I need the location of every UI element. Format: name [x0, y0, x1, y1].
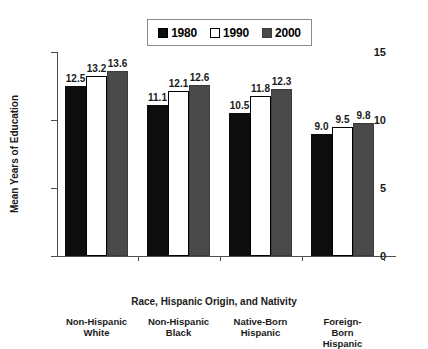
legend-label-2000: 2000	[275, 27, 301, 39]
y-axis-tick-label: 10	[374, 114, 386, 126]
x-axis-category-label: Foreign-Born Hispanic	[316, 316, 369, 349]
bar-value-label: 12.1	[169, 78, 188, 89]
y-axis-tick	[51, 52, 57, 53]
y-axis-tick-label: 5	[380, 182, 386, 194]
x-axis-category-label: Native-Born Hispanic	[234, 316, 288, 338]
bar	[168, 91, 189, 256]
legend-swatch-1990-icon	[210, 28, 220, 38]
bar-value-label: 12.3	[272, 76, 291, 87]
x-axis-category-label: Non-Hispanic White	[66, 316, 127, 338]
bar-value-label: 9.0	[315, 121, 329, 132]
legend-item-1990: 1990	[210, 27, 249, 39]
bar	[189, 85, 210, 256]
bar	[332, 127, 353, 256]
bar-value-label: 12.6	[190, 72, 209, 83]
y-axis-tick	[51, 120, 57, 121]
bar-group: 9.09.59.8	[311, 52, 374, 256]
bar	[311, 134, 332, 256]
bar-value-label: 11.8	[251, 83, 270, 94]
x-axis-category-label: Non-Hispanic Black	[148, 316, 209, 338]
bar-value-label: 12.5	[66, 73, 85, 84]
bar-group: 11.112.112.6	[147, 52, 210, 256]
bar-value-label: 11.1	[148, 92, 167, 103]
legend-swatch-2000-icon	[262, 28, 272, 38]
legend-swatch-1980-icon	[158, 28, 168, 38]
bar	[271, 89, 292, 256]
bar	[250, 96, 271, 256]
bar	[107, 71, 128, 256]
legend-item-2000: 2000	[262, 27, 301, 39]
x-axis-line	[57, 256, 396, 257]
legend-item-1980: 1980	[158, 27, 197, 39]
bar-value-label: 9.5	[336, 114, 350, 125]
legend-label-1980: 1980	[171, 27, 197, 39]
bar-value-label: 13.6	[108, 58, 127, 69]
y-axis-title: Mean Years of Education	[9, 95, 20, 213]
x-axis-tick	[302, 256, 303, 261]
plot-area: 05101512.513.213.6Non-Hispanic White11.1…	[57, 52, 395, 256]
bar-value-label: 13.2	[87, 63, 106, 74]
y-axis-tick	[51, 256, 57, 257]
x-axis-tick	[384, 256, 385, 261]
x-axis-tick	[138, 256, 139, 261]
bar	[65, 86, 86, 256]
bar-group: 10.511.812.3	[229, 52, 292, 256]
bar	[229, 113, 250, 256]
y-axis-tick	[51, 188, 57, 189]
bar-value-label: 10.5	[230, 100, 249, 111]
y-axis-tick-label: 15	[374, 46, 386, 58]
bar	[147, 105, 168, 256]
chart-legend: 1980 1990 2000	[147, 19, 312, 46]
bar	[86, 76, 107, 256]
bar	[353, 123, 374, 256]
bar-value-label: 9.8	[357, 110, 371, 121]
bar-group: 12.513.213.6	[65, 52, 128, 256]
x-axis-tick	[220, 256, 221, 261]
legend-label-1990: 1990	[223, 27, 249, 39]
x-axis-title: Race, Hispanic Origin, and Nativity	[0, 296, 428, 307]
